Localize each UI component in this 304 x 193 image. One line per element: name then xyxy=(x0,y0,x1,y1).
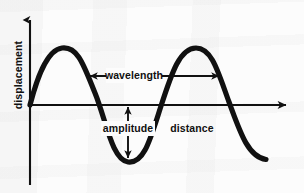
axes-group xyxy=(30,20,286,185)
amplitude-label: amplitude xyxy=(103,122,154,134)
wavelength-annotation: wavelength xyxy=(90,68,219,83)
wavelength-label: wavelength xyxy=(104,69,163,81)
wave-diagram-canvas: wavelength amplitude distance displaceme… xyxy=(0,0,304,193)
displacement-annotation: displacement xyxy=(12,40,24,109)
wave-diagram-figure: wavelength amplitude distance displaceme… xyxy=(0,0,304,193)
distance-annotation: distance xyxy=(170,122,213,134)
distance-label: distance xyxy=(170,122,213,134)
displacement-label: displacement xyxy=(12,40,24,109)
